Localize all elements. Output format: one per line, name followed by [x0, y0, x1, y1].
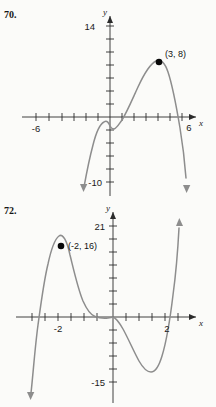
- x-tick-label-neg6: -6: [32, 123, 40, 134]
- y-axis-label-70: y: [102, 7, 107, 17]
- curve-72-right-arrowhead: [176, 218, 183, 226]
- graph-72-plot: (-2, 16) y x 21 -15 -2 2: [0, 195, 216, 407]
- curve-70-left-arrowhead: [80, 184, 87, 192]
- point-marker-3-8: [156, 59, 163, 66]
- x-axis-arrowhead-70: [189, 114, 196, 120]
- graph-70-svg: (3, 8) y x 14 -10 -6 6: [0, 0, 216, 200]
- point-label-3-8: (3, 8): [165, 49, 186, 59]
- x-axis-label-72: x: [198, 318, 203, 328]
- curve-70: [84, 60, 186, 187]
- y-tick-label-neg15: -15: [91, 377, 105, 388]
- curve-72-left-arrowhead: [27, 392, 34, 400]
- point-label-neg2-16: (-2, 16): [68, 241, 97, 251]
- textbook-figure-page: 70.: [0, 0, 216, 407]
- y-axis-label-72: y: [105, 203, 110, 213]
- y-axis-arrowhead-70: [107, 16, 113, 23]
- problem-70-figure: 70.: [0, 0, 216, 200]
- point-marker-neg2-16: [58, 243, 65, 250]
- y-tick-label-21: 21: [94, 221, 105, 232]
- problem-72-figure: 72.: [0, 195, 216, 407]
- graph-70-plot: (3, 8) y x 14 -10 -6 6: [0, 0, 216, 200]
- x-axis-label-70: x: [198, 118, 203, 128]
- x-tick-label-6: 6: [186, 122, 191, 133]
- x-tick-label-neg2: -2: [54, 323, 62, 334]
- x-tick-label-2: 2: [164, 323, 169, 334]
- graph-72-svg: (-2, 16) y x 21 -15 -2 2: [0, 195, 216, 407]
- y-axis-arrowhead-72: [110, 212, 116, 219]
- curve-70-right-arrowhead: [183, 185, 190, 193]
- y-tick-label-neg10: -10: [88, 177, 102, 188]
- x-axis-arrowhead-72: [189, 314, 196, 320]
- y-tick-label-14: 14: [84, 21, 95, 32]
- curve-72: [31, 228, 179, 393]
